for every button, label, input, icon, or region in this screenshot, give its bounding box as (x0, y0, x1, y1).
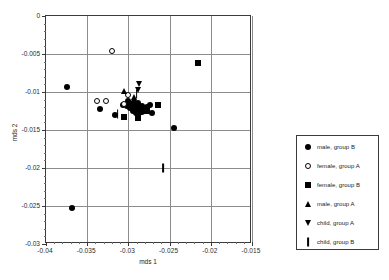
x-tick (128, 242, 129, 246)
data-point (121, 88, 127, 94)
x-tick-minor (137, 242, 138, 244)
legend-marker-triangle-up-icon (297, 194, 317, 213)
legend-item-label: male, group B (317, 144, 355, 150)
data-point (64, 84, 70, 90)
legend-item-label: male, group A (317, 201, 355, 207)
legend-item[interactable]: female, group A (297, 156, 378, 175)
y-tick-label: -0.025 (0, 202, 40, 209)
x-axis-label: mds 1 (45, 258, 251, 265)
x-tick (46, 242, 47, 246)
data-point (117, 110, 119, 119)
gridline-horizontal (46, 206, 250, 207)
y-tick-label: -0.01 (0, 88, 40, 95)
y-tick (42, 206, 46, 207)
y-tick-minor (44, 77, 46, 78)
y-tick-minor (44, 214, 46, 215)
y-tick-label: 0 (0, 12, 40, 19)
y-tick-label: -0.03 (0, 240, 40, 247)
x-tick-minor (194, 242, 195, 244)
legend-triangle-down-icon (305, 220, 311, 226)
data-point (141, 105, 147, 111)
gridline-horizontal (46, 130, 250, 131)
legend-item-label: child, group B (317, 239, 354, 245)
data-point (135, 115, 141, 121)
y-tick-minor (44, 107, 46, 108)
y-tick (42, 92, 46, 93)
x-tick-minor (219, 242, 220, 244)
legend-marker-open-circle-icon (297, 156, 317, 175)
legend-marker-filled-circle-icon (297, 137, 317, 156)
gridline-vertical (128, 16, 129, 242)
y-tick-minor (44, 69, 46, 70)
legend-bar-icon (307, 237, 309, 246)
gridline-vertical (252, 16, 253, 242)
y-tick-minor (44, 62, 46, 63)
y-tick-minor (44, 153, 46, 154)
legend-triangle-up-icon (305, 201, 311, 207)
legend-box: male, group Bfemale, group Afemale, grou… (296, 135, 379, 250)
x-tick-minor (236, 242, 237, 244)
data-point (155, 102, 161, 108)
plot-area (45, 15, 251, 243)
data-point (136, 89, 138, 98)
y-tick-minor (44, 183, 46, 184)
data-point (136, 81, 142, 87)
x-tick-minor (145, 242, 146, 244)
data-point (94, 98, 100, 104)
legend-item[interactable]: child, group A (297, 213, 378, 232)
y-tick-minor (44, 84, 46, 85)
y-axis-label: mds 2 (11, 103, 18, 163)
x-tick-minor (112, 242, 113, 244)
y-tick (42, 244, 46, 245)
data-point (171, 125, 177, 131)
y-tick (42, 130, 46, 131)
legend-item[interactable]: female, group B (297, 175, 378, 194)
x-tick-minor (203, 242, 204, 244)
y-tick (42, 168, 46, 169)
x-tick-minor (227, 242, 228, 244)
x-tick-label: -0.02 (202, 247, 217, 254)
gridline-horizontal (46, 168, 250, 169)
x-tick-minor (62, 242, 63, 244)
legend-marker-bar-icon (297, 232, 317, 251)
y-tick-minor (44, 221, 46, 222)
y-tick-label: -0.015 (0, 126, 40, 133)
data-point (69, 205, 75, 211)
x-tick-minor (153, 242, 154, 244)
y-tick-label: -0.005 (0, 50, 40, 57)
y-tick-minor (44, 39, 46, 40)
legend-item[interactable]: male, group B (297, 137, 378, 156)
x-tick-minor (120, 242, 121, 244)
x-tick-minor (95, 242, 96, 244)
legend-marker-triangle-down-icon (297, 213, 317, 232)
y-tick (42, 54, 46, 55)
x-tick-minor (186, 242, 187, 244)
x-tick (252, 242, 253, 246)
x-tick-minor (71, 242, 72, 244)
legend-item-label: female, group A (317, 163, 360, 169)
data-point (149, 110, 155, 116)
y-tick-minor (44, 46, 46, 47)
x-tick (87, 242, 88, 246)
x-tick (170, 242, 171, 246)
y-tick-minor (44, 176, 46, 177)
data-point (147, 102, 153, 108)
x-tick-minor (54, 242, 55, 244)
y-tick-minor (44, 145, 46, 146)
legend-item[interactable]: child, group B (297, 232, 378, 251)
y-tick-minor (44, 236, 46, 237)
y-tick-minor (44, 160, 46, 161)
x-tick-label: -0.035 (77, 247, 96, 254)
legend-item[interactable]: male, group A (297, 194, 378, 213)
legend-item-label: child, group A (317, 220, 354, 226)
y-tick-minor (44, 31, 46, 32)
data-point (97, 106, 103, 112)
y-tick-minor (44, 115, 46, 116)
gridline-horizontal (46, 54, 250, 55)
y-tick-minor (44, 138, 46, 139)
legend-filled-square-icon (305, 182, 311, 188)
data-point (109, 48, 115, 54)
y-tick-minor (44, 24, 46, 25)
x-tick-minor (104, 242, 105, 244)
gridline-horizontal (46, 92, 250, 93)
